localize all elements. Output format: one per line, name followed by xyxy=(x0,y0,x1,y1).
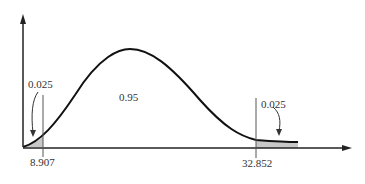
right-tail-area-label: 0.025 xyxy=(261,99,286,110)
left-tail-area-label: 0.025 xyxy=(28,79,53,90)
center-area-label: 0.95 xyxy=(119,92,138,103)
right-tail-arrowhead-icon xyxy=(276,129,282,136)
y-axis-arrow-icon xyxy=(20,14,26,24)
density-curve xyxy=(23,49,298,147)
x-axis-arrow-icon xyxy=(342,145,352,151)
lower-critical-value-label: 8.907 xyxy=(30,157,55,168)
left-tail-arrowhead-icon xyxy=(30,130,36,137)
upper-critical-value-label: 32.852 xyxy=(242,158,272,169)
left-tail-arrow-icon xyxy=(32,92,38,133)
right-tail-arrow-icon xyxy=(273,107,280,131)
